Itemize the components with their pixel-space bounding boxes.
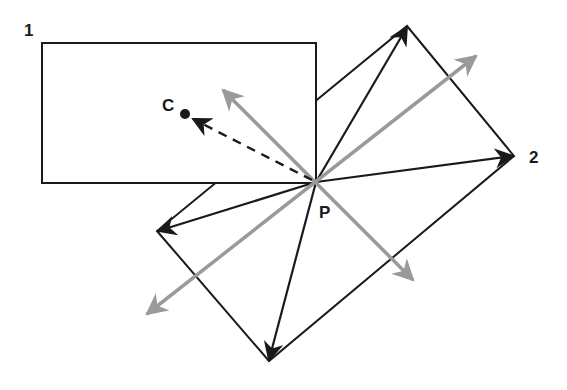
diagram-canvas: 1 2 C P [0,0,567,390]
point-c-dot [180,109,190,119]
label-rect-2: 2 [529,148,538,167]
gray-axis-minor [223,90,413,280]
label-point-c: C [162,96,174,115]
arrow-p-to-top-corner [316,27,407,182]
label-point-p: P [319,203,330,222]
label-rect-1: 1 [24,21,33,40]
rectangle-1 [42,43,316,183]
arrow-p-to-bottom-corner [269,182,316,360]
arrow-p-to-left-corner [158,182,316,231]
